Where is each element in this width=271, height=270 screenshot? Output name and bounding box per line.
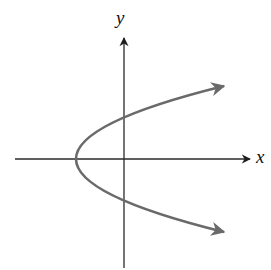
parabola-graph (0, 0, 271, 270)
y-axis-label: y (116, 8, 124, 27)
x-axis-label: x (256, 147, 264, 166)
